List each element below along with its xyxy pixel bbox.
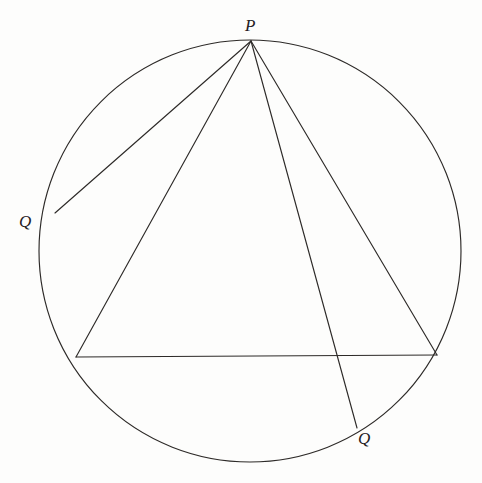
segment-p-a bbox=[76, 41, 251, 357]
segment-p-q-bottom bbox=[251, 41, 357, 428]
label-point-q-left: Q bbox=[19, 213, 31, 230]
main-circle bbox=[39, 40, 461, 462]
label-point-q-bottom: Q bbox=[358, 430, 370, 447]
segment-p-q-left bbox=[55, 41, 251, 213]
figure-canvas bbox=[0, 0, 482, 483]
geometry-figure: P Q Q bbox=[0, 0, 482, 483]
label-point-p: P bbox=[245, 17, 255, 34]
segment-chord-ab bbox=[76, 355, 437, 357]
segment-p-b bbox=[251, 41, 437, 355]
